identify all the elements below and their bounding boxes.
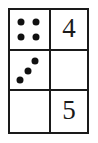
cell-row1-col2-numeral: 4	[51, 10, 87, 51]
dot	[17, 18, 24, 25]
dot-numeral-grid: 4 5	[8, 8, 89, 134]
dot	[32, 33, 39, 40]
cell-row3-col1-empty	[10, 91, 51, 132]
dot	[31, 57, 38, 64]
dot-group-three	[10, 51, 49, 89]
cell-row3-col2-numeral: 5	[51, 91, 87, 132]
numeral-value: 4	[51, 10, 87, 49]
dot	[16, 76, 23, 83]
cell-row2-col1-dots	[10, 51, 51, 91]
numeral-value	[10, 91, 49, 132]
dot-group-four	[10, 10, 49, 49]
cell-row1-col1-dots	[10, 10, 51, 51]
numeral-value	[51, 51, 87, 89]
cell-row2-col2-empty	[51, 51, 87, 91]
numeral-value: 5	[51, 91, 87, 132]
dot	[32, 18, 39, 25]
dot	[17, 33, 24, 40]
dot	[24, 67, 31, 74]
